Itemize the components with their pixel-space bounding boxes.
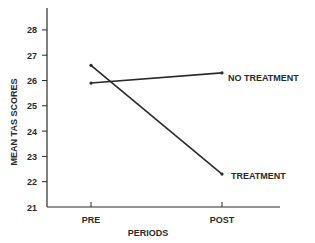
y-tick-label: 23 (27, 152, 37, 162)
data-point (220, 71, 223, 74)
line-chart: 2122232425262728 PRE POST PERIODS MEAN T… (0, 0, 315, 243)
y-tick-label: 21 (27, 203, 37, 213)
data-point (89, 81, 92, 84)
data-point (89, 64, 92, 67)
y-axis-label: MEAN TAS SCORES (9, 79, 19, 166)
y-tick-label: 22 (27, 177, 37, 187)
series-label-treatment: TREATMENT (231, 171, 286, 181)
y-tick-label: 27 (27, 51, 37, 61)
data-point (220, 173, 223, 176)
y-tick-label: 25 (27, 101, 37, 111)
x-axis-label: PERIODS (128, 228, 169, 238)
x-tick-label-post: POST (210, 215, 235, 225)
series-line (91, 65, 222, 174)
y-tick-label: 28 (27, 25, 37, 35)
series-group (89, 64, 223, 176)
series-label-no-treatment: NO TREATMENT (228, 73, 299, 83)
x-tick-label-pre: PRE (82, 215, 101, 225)
y-ticks: 2122232425262728 (27, 25, 47, 212)
y-tick-label: 24 (27, 127, 37, 137)
y-tick-label: 26 (27, 76, 37, 86)
